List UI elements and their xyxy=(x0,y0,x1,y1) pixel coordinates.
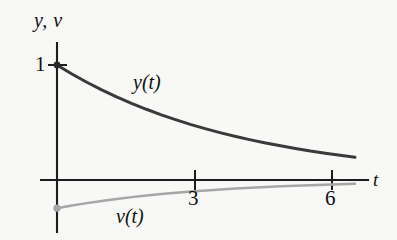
x-axis-label: t xyxy=(373,170,378,189)
curve-label-y: y(t) xyxy=(133,72,161,92)
x-tick-label-6: 6 xyxy=(325,188,336,209)
curve-v xyxy=(57,184,355,208)
curve-y-start-marker xyxy=(54,62,61,69)
figure-canvas: y, v t y(t) v(t) 1 3 6 xyxy=(0,0,397,240)
curve-v-start-marker xyxy=(53,205,60,212)
x-tick-label-3: 3 xyxy=(188,188,199,209)
curve-label-v: v(t) xyxy=(116,206,144,226)
curve-y xyxy=(57,65,355,157)
y-tick-label-1: 1 xyxy=(35,54,46,75)
y-axis-label: y, v xyxy=(34,10,63,30)
plot-area xyxy=(0,0,397,240)
